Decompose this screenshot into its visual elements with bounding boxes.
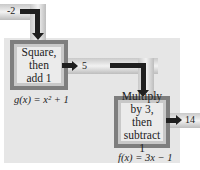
input-value: -2 <box>7 5 15 16</box>
box1-out-arrow <box>62 63 72 68</box>
box1-out-arrowhead-icon <box>72 61 78 71</box>
input-arrowhead-icon <box>32 33 44 40</box>
function-box-g: Square, then add 1 <box>10 40 68 90</box>
output-value: 14 <box>185 114 195 125</box>
formula-f: f(x) = 3x − 1 <box>118 152 172 163</box>
output-arrowhead-icon <box>176 115 182 125</box>
box2-line1: Multiply <box>121 90 163 103</box>
formula-g: g(x) = x² + 1 <box>14 94 69 105</box>
output-arrow <box>166 118 176 123</box>
box1-line2: then <box>22 59 57 72</box>
middle-arrow-v <box>141 63 146 91</box>
middle-arrow-h <box>110 63 145 68</box>
function-box-f: Multiply by 3, then subtract 1 <box>114 96 170 148</box>
box1-line1: Square, <box>22 46 57 59</box>
intermediate-value: 5 <box>82 60 87 71</box>
box1-line3: add 1 <box>22 72 57 85</box>
box2-line2: by 3, then <box>121 103 163 129</box>
box2-line3: subtract 1 <box>121 129 163 155</box>
input-arrow-v <box>35 9 40 33</box>
